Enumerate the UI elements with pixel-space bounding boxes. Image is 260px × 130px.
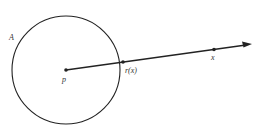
ray-from-p bbox=[66, 45, 246, 70]
point-r-x bbox=[121, 60, 125, 64]
label-A: A bbox=[8, 33, 14, 42]
arrowhead-icon bbox=[242, 42, 252, 48]
retraction-diagram: A p r(x) x bbox=[0, 0, 260, 130]
label-x: x bbox=[210, 53, 215, 62]
label-p: p bbox=[61, 75, 66, 84]
point-p bbox=[64, 68, 68, 72]
label-r-x: r(x) bbox=[125, 66, 137, 75]
point-x bbox=[212, 48, 216, 52]
